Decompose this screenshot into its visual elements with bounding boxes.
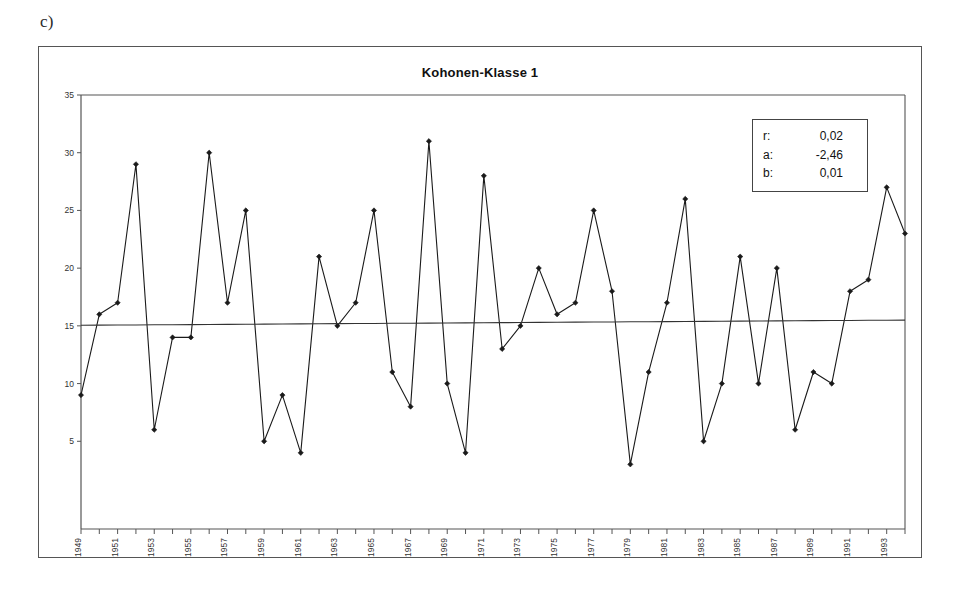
x-tick-label: 1951 [110, 538, 120, 557]
data-point-marker [628, 462, 633, 467]
data-point-marker [866, 277, 871, 282]
y-tick-label: 25 [65, 205, 75, 215]
data-point-marker [225, 300, 230, 305]
data-point-marker [390, 369, 395, 374]
data-point-marker [133, 162, 138, 167]
x-tick-label: 1979 [622, 538, 632, 557]
y-tick-label: 30 [65, 148, 75, 158]
data-point-marker [609, 289, 614, 294]
data-point-marker [371, 208, 376, 213]
x-tick-label: 1969 [439, 538, 449, 557]
figure-root: c) Kohonen-Klasse 1 51015202530351949195… [0, 0, 960, 590]
stat-value-r: 0,02 [793, 127, 857, 146]
data-point-marker [445, 381, 450, 386]
stat-value-b: 0,01 [793, 164, 857, 183]
stat-row-b: b: 0,01 [753, 164, 867, 183]
data-point-marker [683, 196, 688, 201]
y-tick-label: 5 [69, 436, 74, 446]
data-point-marker [115, 300, 120, 305]
x-tick-label: 1963 [329, 538, 339, 557]
stat-value-a: -2,46 [793, 146, 857, 165]
x-tick-label: 1965 [366, 538, 376, 557]
data-point-marker [902, 231, 907, 236]
stat-key-b: b: [763, 164, 793, 183]
data-point-marker [829, 381, 834, 386]
x-tick-label: 1991 [842, 538, 852, 557]
x-tick-label: 1977 [586, 538, 596, 557]
data-point-marker [78, 393, 83, 398]
data-point-marker [243, 208, 248, 213]
data-point-marker [774, 266, 779, 271]
chart-frame: Kohonen-Klasse 1 51015202530351949195119… [38, 46, 922, 558]
data-point-marker [811, 369, 816, 374]
stat-key-a: a: [763, 146, 793, 165]
stat-row-a: a: -2,46 [753, 146, 867, 165]
data-point-marker [701, 439, 706, 444]
data-point-marker [719, 381, 724, 386]
x-tick-label: 1971 [476, 538, 486, 557]
stat-key-r: r: [763, 127, 793, 146]
data-point-marker [646, 369, 651, 374]
x-tick-label: 1983 [696, 538, 706, 557]
x-tick-label: 1987 [769, 538, 779, 557]
data-point-marker [738, 254, 743, 259]
data-point-marker [847, 289, 852, 294]
data-point-marker [884, 185, 889, 190]
data-point-marker [554, 312, 559, 317]
y-tick-label: 15 [65, 321, 75, 331]
x-tick-label: 1985 [732, 538, 742, 557]
x-tick-label: 1959 [256, 538, 266, 557]
data-point-marker [262, 439, 267, 444]
data-point-marker [316, 254, 321, 259]
data-point-marker [280, 393, 285, 398]
stat-row-r: r: 0,02 [753, 127, 867, 146]
x-tick-label: 1981 [659, 538, 669, 557]
data-point-marker [188, 335, 193, 340]
data-point-marker [97, 312, 102, 317]
x-tick-label: 1989 [805, 538, 815, 557]
x-tick-label: 1967 [403, 538, 413, 557]
data-point-marker [408, 404, 413, 409]
data-point-marker [793, 427, 798, 432]
x-tick-label: 1949 [73, 538, 83, 557]
panel-label: c) [40, 12, 54, 32]
x-tick-label: 1975 [549, 538, 559, 557]
x-tick-label: 1955 [183, 538, 193, 557]
x-tick-label: 1993 [879, 538, 889, 557]
data-point-marker [573, 300, 578, 305]
data-point-marker [152, 427, 157, 432]
data-point-marker [463, 450, 468, 455]
x-tick-label: 1961 [293, 538, 303, 557]
trend-line [81, 320, 905, 325]
data-point-marker [756, 381, 761, 386]
data-point-marker [207, 150, 212, 155]
data-point-marker [664, 300, 669, 305]
data-point-marker [170, 335, 175, 340]
y-tick-label: 20 [65, 263, 75, 273]
data-point-marker [591, 208, 596, 213]
x-tick-label: 1957 [219, 538, 229, 557]
x-tick-label: 1973 [512, 538, 522, 557]
data-point-marker [481, 173, 486, 178]
data-point-marker [536, 266, 541, 271]
y-tick-label: 35 [65, 90, 75, 100]
data-point-marker [426, 139, 431, 144]
statistics-box: r: 0,02 a: -2,46 b: 0,01 [752, 119, 868, 192]
y-tick-label: 10 [65, 379, 75, 389]
data-point-marker [298, 450, 303, 455]
x-tick-label: 1953 [146, 538, 156, 557]
